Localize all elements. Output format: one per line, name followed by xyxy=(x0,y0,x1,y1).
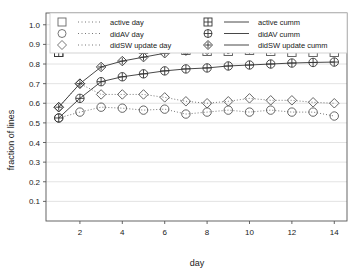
marker-circle-plus xyxy=(288,59,296,67)
marker-circle-plus xyxy=(224,62,232,70)
y-tick-label-0.6: 0.6 xyxy=(29,99,41,108)
legend-label: active day xyxy=(110,18,144,27)
legend-label: didAV day xyxy=(110,30,144,39)
x-tick-label-6: 6 xyxy=(162,228,167,237)
legend-label: didSW update day xyxy=(110,41,172,50)
marker-circle-plus xyxy=(309,58,317,66)
marker-circle-plus xyxy=(330,58,338,66)
x-tick-label-12: 12 xyxy=(287,228,296,237)
y-tick-label-1.0: 1.0 xyxy=(29,21,41,30)
legend-label: active cumm xyxy=(258,18,300,27)
y-axis-title: fraction of lines xyxy=(6,109,16,170)
marker-circle-plus xyxy=(204,30,212,38)
x-tick-label-14: 14 xyxy=(330,228,339,237)
chart-container: 0.10.20.30.40.50.60.70.80.91.0 246810121… xyxy=(0,0,358,272)
x-tick-label-10: 10 xyxy=(245,228,254,237)
y-tick-label-0.7: 0.7 xyxy=(29,80,41,89)
marker-circle-plus xyxy=(182,65,190,73)
y-tick-label-0.3: 0.3 xyxy=(29,158,41,167)
legend-label: didSW update cumm xyxy=(258,41,328,50)
marker-circle-plus xyxy=(161,67,169,75)
x-tick-label-2: 2 xyxy=(78,228,83,237)
y-tick-label-0.5: 0.5 xyxy=(29,119,41,128)
marker-circle-plus xyxy=(266,60,274,68)
marker-circle-plus xyxy=(245,61,253,69)
y-tick-label-0.9: 0.9 xyxy=(29,40,41,49)
marker-circle-plus xyxy=(55,114,63,122)
marker-circle-plus xyxy=(76,94,84,102)
y-tick-label-0.8: 0.8 xyxy=(29,60,41,69)
y-tick-label-0.2: 0.2 xyxy=(29,178,41,187)
marker-circle-plus xyxy=(97,77,105,85)
legend-label: didAV cumm xyxy=(258,30,300,39)
marker-circle-plus xyxy=(203,64,211,72)
marker-circle-plus xyxy=(118,73,126,81)
marker-circle-plus xyxy=(139,70,147,78)
y-tick-label-0.1: 0.1 xyxy=(29,197,41,206)
x-tick-label-4: 4 xyxy=(120,228,125,237)
x-axis-title: day xyxy=(190,258,205,268)
y-tick-label-0.4: 0.4 xyxy=(29,139,41,148)
legend-box: active daydidAV daydidSW update dayactiv… xyxy=(50,13,347,53)
x-tick-label-8: 8 xyxy=(205,228,210,237)
fraction-of-lines-line-chart: 0.10.20.30.40.50.60.70.80.91.0 246810121… xyxy=(0,0,358,272)
